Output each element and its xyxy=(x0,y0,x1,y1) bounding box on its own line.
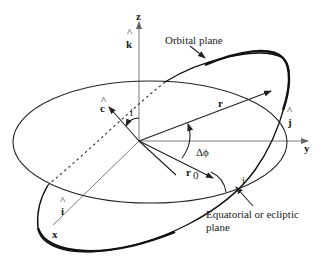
z-axis-label: z xyxy=(136,10,141,22)
svg-text:k: k xyxy=(126,38,133,50)
svg-text:0: 0 xyxy=(193,169,199,181)
inclination-label-top: i xyxy=(130,106,133,118)
orbital-plane-diagram: z y x ^ k ^ j ^ i ^ c r r 0 Δϕ i i Orb xyxy=(0,0,322,266)
inclination-arc-right xyxy=(211,172,226,192)
svg-text:^: ^ xyxy=(127,26,133,38)
svg-text:i: i xyxy=(61,205,64,217)
equatorial-plane-label-line1: Equatorial or ecliptic xyxy=(206,208,299,220)
svg-text:^: ^ xyxy=(287,104,293,116)
inclination-arc-top xyxy=(126,118,139,126)
r-vector xyxy=(139,91,271,141)
y-axis-label: y xyxy=(304,142,310,154)
svg-text:r: r xyxy=(186,166,191,178)
orbital-plane-pointer xyxy=(190,46,205,58)
k-hat-label: ^ k xyxy=(126,26,133,50)
c-hat-label: ^ c xyxy=(100,94,107,114)
x-axis-label: x xyxy=(52,228,58,240)
orbital-plane-label: Orbital plane xyxy=(165,34,223,46)
equatorial-plane-ellipse xyxy=(13,81,287,203)
equatorial-plane-label-line2: plane xyxy=(206,221,230,233)
svg-text:j: j xyxy=(287,116,292,128)
inclination-label-right: i xyxy=(242,174,245,186)
c-hat-vector xyxy=(109,107,139,141)
svg-text:c: c xyxy=(100,102,105,114)
r0-vector-label: r 0 xyxy=(186,166,199,181)
r-vector-label: r xyxy=(218,97,223,109)
line-of-nodes-front xyxy=(139,141,176,175)
equatorial-plane-pointer xyxy=(236,187,253,206)
x-axis xyxy=(53,141,139,225)
j-hat-label: ^ j xyxy=(287,104,293,128)
delta-phi-label: Δϕ xyxy=(196,146,209,158)
